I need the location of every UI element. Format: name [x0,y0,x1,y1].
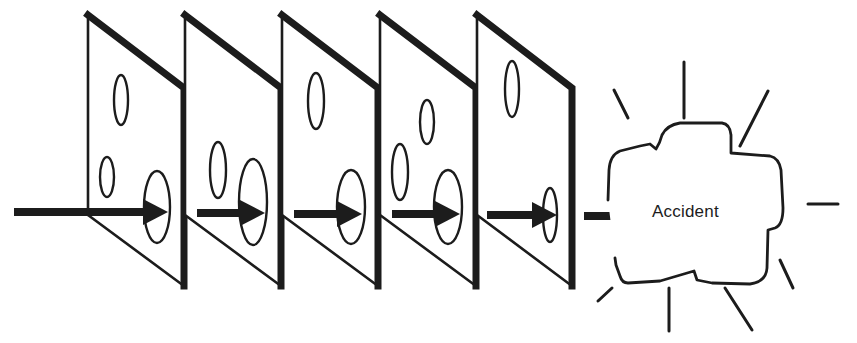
accident-label: Accident [652,202,742,222]
burst-ray [780,260,793,288]
defense-layers [86,15,572,286]
slice-5 [477,15,572,286]
burst-ray [740,91,768,146]
swiss-cheese-diagram [0,0,857,343]
hole [114,75,128,125]
hole [505,61,519,117]
burst-ray [725,288,752,330]
hole [392,144,408,200]
burst-ray [614,90,628,118]
slice-4 [380,15,476,286]
slice-2 [185,15,281,286]
burst-ray [598,288,612,301]
hole [210,142,226,198]
hole [308,73,324,129]
slice-3 [282,15,378,286]
slice-1 [86,15,184,286]
hole [100,157,114,197]
hole [420,100,434,144]
